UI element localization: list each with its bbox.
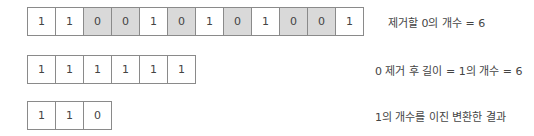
bit-cell-zero: 0 <box>307 7 336 36</box>
bit-cell: 0 <box>83 101 112 130</box>
bit-cell: 1 <box>139 7 168 36</box>
bit-cell: 1 <box>251 7 280 36</box>
row-ones-only: 1 1 1 1 1 1 <box>27 55 196 84</box>
bit-cell-zero: 0 <box>167 7 196 36</box>
bit-cell: 1 <box>195 7 224 36</box>
bit-cell-zero: 0 <box>111 7 140 36</box>
bit-cell: 1 <box>55 7 84 36</box>
row-label-result: 1의 개수를 이진 변환한 결과 <box>375 108 506 124</box>
bit-cell-zero: 0 <box>279 7 308 36</box>
bit-cell: 1 <box>139 55 168 84</box>
bit-cell-zero: 0 <box>83 7 112 36</box>
bit-cell: 1 <box>55 101 84 130</box>
bit-cell: 1 <box>55 55 84 84</box>
bit-cell: 1 <box>83 55 112 84</box>
row-label-zeros-removed: 제거할 0의 개수 = 6 <box>388 14 485 30</box>
bit-cell: 1 <box>335 7 364 36</box>
row-binary-result: 1 1 0 <box>27 101 112 130</box>
bit-cell: 1 <box>27 101 56 130</box>
bit-cell: 1 <box>167 55 196 84</box>
bit-cell: 1 <box>111 55 140 84</box>
bit-cell-zero: 0 <box>223 7 252 36</box>
bit-cell: 1 <box>27 7 56 36</box>
row-label-length: 0 제거 후 길이 = 1의 개수 = 6 <box>375 62 522 78</box>
row-original-binary: 1 1 0 0 1 0 1 0 1 0 0 1 <box>27 7 364 36</box>
bit-cell: 1 <box>27 55 56 84</box>
